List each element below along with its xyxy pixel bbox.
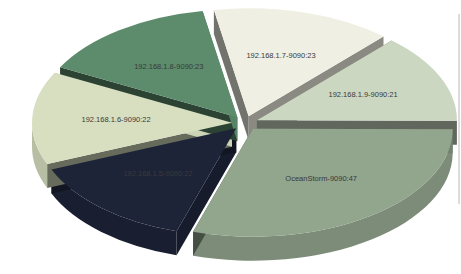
pie-slice-label: 192.168.1.9-9090:21 [328,90,397,99]
pie-slice-label: 192.168.1.6-9090:22 [81,115,150,124]
pie-chart-svg: 192.168.1.7-9090:23192.168.1.9-9090:21Oc… [0,0,461,274]
pie-slice-label: 192.168.1.7-9090:23 [246,51,315,60]
pie-chart-panel: 192.168.1.7-9090:23192.168.1.9-9090:21Oc… [0,0,461,274]
panel-edge [458,14,460,204]
pie-slice-label: 192.168.1.8-9090:23 [134,62,203,71]
pie-slice-label: OceanStorm-9090:47 [285,174,357,183]
pie-slice-label: 192.168.1.5-9090:22 [123,169,192,178]
